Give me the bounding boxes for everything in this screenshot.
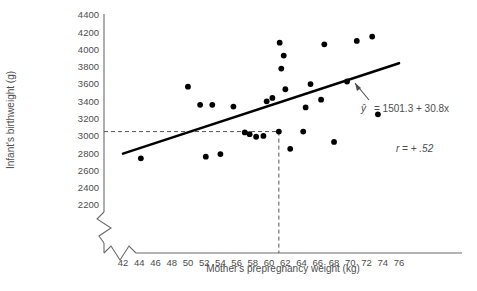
data-point [321, 41, 327, 47]
y-tick-label: 4200 [78, 27, 99, 38]
data-point [277, 40, 283, 46]
data-point [253, 134, 259, 140]
scatter-plot-figure: 2200240026002800300032003400360038004000… [0, 0, 477, 291]
data-point [218, 151, 224, 157]
x-tick-label: 46 [150, 257, 161, 268]
data-point [269, 95, 275, 101]
x-tick-label: 76 [394, 257, 405, 268]
y-tick-label: 3000 [78, 130, 99, 141]
data-point [331, 139, 337, 145]
data-point [318, 97, 324, 103]
data-point [278, 66, 284, 72]
data-point [308, 81, 314, 87]
y-tick-label: 2200 [78, 199, 99, 210]
data-point [282, 86, 288, 92]
regression-equation-symbol: ŷ [360, 103, 367, 114]
data-point [261, 133, 267, 139]
data-point [203, 154, 209, 160]
x-tick-label: 74 [377, 257, 388, 268]
x-tick-label: 50 [183, 257, 194, 268]
data-point [354, 38, 360, 44]
chart-svg: 2200240026002800300032003400360038004000… [0, 0, 477, 291]
x-tick-label: 44 [134, 257, 145, 268]
y-tick-label: 2600 [78, 165, 99, 176]
data-point [264, 98, 270, 104]
data-point [303, 105, 309, 111]
data-point [197, 102, 203, 108]
data-point [281, 53, 287, 59]
data-point [369, 34, 375, 40]
data-point [185, 84, 191, 90]
y-tick-label: 3200 [78, 113, 99, 124]
y-axis-title: Infant's birthweight (g) [5, 71, 16, 169]
x-tick-label: 72 [361, 257, 372, 268]
data-point [138, 155, 144, 161]
y-tick-label: 2400 [78, 182, 99, 193]
data-point [231, 104, 237, 110]
y-tick-label: 2800 [78, 148, 99, 159]
data-point [344, 79, 350, 85]
x-axis-title: Mother's prepregnancy weight (kg) [206, 263, 360, 274]
regression-equation-text: = 1501.3 + 30.8x [374, 103, 449, 114]
correlation-label: r = + .52 [396, 143, 434, 154]
data-point [287, 146, 293, 152]
y-tick-label: 3400 [78, 96, 99, 107]
y-tick-label: 3800 [78, 61, 99, 72]
x-tick-label: 42 [118, 257, 129, 268]
x-tick-label: 48 [166, 257, 177, 268]
y-tick-label: 4000 [78, 44, 99, 55]
y-tick-label: 3600 [78, 78, 99, 89]
data-point [209, 102, 215, 108]
data-point [276, 129, 282, 135]
data-point [247, 131, 253, 137]
data-point [300, 129, 306, 135]
y-tick-label: 4400 [78, 9, 99, 20]
